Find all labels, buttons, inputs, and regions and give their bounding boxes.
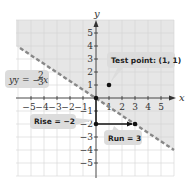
run-end-point [133,122,138,127]
svg-text:−4: −4 [80,145,94,155]
svg-text:−5: −5 [22,102,36,112]
svg-text:5: 5 [158,102,164,112]
svg-text:−1: −1 [80,106,93,116]
svg-text:−3: −3 [80,132,94,142]
origin-point [94,96,99,101]
svg-text:Rise = −2: Rise = −2 [34,117,75,126]
svg-text:1: 1 [87,80,93,90]
svg-text:−5: −5 [80,158,94,168]
test-point [107,83,112,88]
equation-callout: yy = − 2 3 x [5,70,49,88]
svg-text:−4: −4 [35,102,49,112]
svg-text:Run = 3: Run = 3 [108,134,141,143]
svg-text:x: x [43,75,48,85]
svg-text:2: 2 [87,67,93,77]
svg-text:3: 3 [87,54,93,64]
svg-text:3: 3 [132,102,138,112]
x-axis-label: x [179,92,185,103]
svg-text:−3: −3 [48,102,62,112]
svg-text:−2: −2 [61,102,74,112]
coordinate-graph: −5 −4 −3 −2 −1 1 2 3 4 5 5 4 3 2 1 −1 −2… [0,0,189,184]
svg-text:yy = −: yy = − [8,75,40,85]
run-callout: Run = 3 [104,126,142,145]
rise-start-point [94,122,99,127]
y-axis-label: y [93,8,100,19]
svg-text:5: 5 [87,28,93,38]
svg-text:2: 2 [119,102,125,112]
svg-text:4: 4 [145,102,151,112]
svg-text:Test point: (1, 1): Test point: (1, 1) [111,56,181,65]
svg-text:4: 4 [87,41,93,51]
